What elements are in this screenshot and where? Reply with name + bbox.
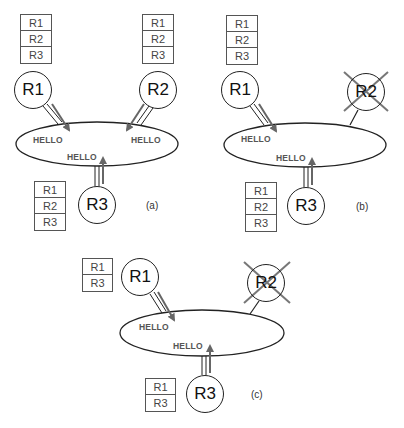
panel-a-r1-hello-arrow xyxy=(52,104,69,130)
panel-a-router-r3: R3 xyxy=(78,186,116,224)
table-row: R3 xyxy=(246,215,276,231)
table-row: R1 xyxy=(21,15,51,31)
table-row: R1 xyxy=(246,183,276,199)
panel-a-hello-r2: HELLO xyxy=(131,135,161,145)
router-label: R1 xyxy=(229,80,251,100)
panel-c-r1-routing-table: R1 R3 xyxy=(82,258,113,292)
table-row: R3 xyxy=(143,47,173,63)
table-row: R2 xyxy=(246,199,276,215)
panel-b-r1-routing-table: R1 R2 R3 xyxy=(226,15,258,65)
table-row: R1 xyxy=(83,259,112,275)
panel-c-router-r3: R3 xyxy=(186,375,224,413)
table-row: R3 xyxy=(21,47,51,63)
table-row: R1 xyxy=(143,15,173,31)
table-row: R3 xyxy=(83,275,112,291)
panel-a-hello-r1: HELLO xyxy=(33,135,63,145)
router-label: R3 xyxy=(86,195,108,215)
panel-c-caption: (c) xyxy=(251,389,263,400)
table-row: R2 xyxy=(143,31,173,47)
panel-a-r1-routing-table: R1 R2 R3 xyxy=(20,14,52,64)
table-row: R3 xyxy=(35,214,65,230)
table-row: R2 xyxy=(21,31,51,47)
router-label: R2 xyxy=(355,82,377,102)
panel-b-r3-routing-table: R1 R2 R3 xyxy=(245,182,277,232)
panel-c-router-r1: R1 xyxy=(121,258,159,296)
table-row: R3 xyxy=(146,395,175,411)
panel-b-hello-r3: HELLO xyxy=(276,153,306,163)
router-label: R1 xyxy=(22,80,44,100)
router-label: R2 xyxy=(255,273,277,293)
panel-a-r2-routing-table: R1 R2 R3 xyxy=(142,14,174,64)
panel-a-router-r2: R2 xyxy=(139,71,177,109)
panel-a-router-r1: R1 xyxy=(14,71,52,109)
panel-b-router-r1: R1 xyxy=(221,71,259,109)
table-row: R1 xyxy=(227,16,257,32)
router-label: R3 xyxy=(194,384,216,404)
panel-a-graphics xyxy=(16,104,178,186)
panel-c-hello-r3: HELLO xyxy=(173,341,203,351)
panel-a-hello-r3: HELLO xyxy=(67,152,97,162)
panel-c-r1-hello-arrow xyxy=(158,292,174,320)
router-label: R3 xyxy=(295,196,317,216)
panel-b-caption: (b) xyxy=(356,201,368,212)
table-row: R2 xyxy=(35,198,65,214)
router-label: R1 xyxy=(129,267,151,287)
panel-c-hello-r1: HELLO xyxy=(139,322,169,332)
router-label: R2 xyxy=(147,80,169,100)
table-row: R1 xyxy=(35,182,65,198)
panel-b-router-r2-failed: R2 xyxy=(347,73,385,111)
table-row: R3 xyxy=(227,48,257,64)
panel-c-r3-routing-table: R1 R3 xyxy=(145,378,176,412)
panel-c-router-r2-failed: R2 xyxy=(247,264,285,302)
table-row: R1 xyxy=(146,379,175,395)
panel-b-router-r3: R3 xyxy=(287,187,325,225)
table-row: R2 xyxy=(227,32,257,48)
panel-a-r3-routing-table: R1 R2 R3 xyxy=(34,181,66,231)
panel-a-caption: (a) xyxy=(146,200,158,211)
panel-b-hello-r1: HELLO xyxy=(241,134,271,144)
